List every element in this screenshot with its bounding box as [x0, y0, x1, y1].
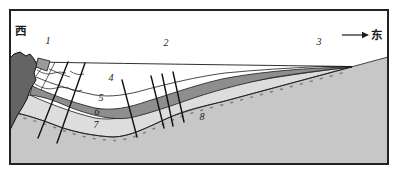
geological-cross-section-figure: 西 东 1 2 3 4 5 6 7 8: [0, 0, 394, 176]
zone2-label: 2: [164, 37, 169, 48]
unit4-label: 4: [109, 72, 114, 83]
east-label: 东: [371, 28, 383, 41]
zone1-label: 1: [46, 35, 51, 46]
unit5-label: 5: [99, 92, 104, 103]
unit8-label: 8: [200, 111, 205, 122]
cross-section-canvas: 西 东 1 2 3 4 5 6 7 8: [0, 0, 394, 176]
zone3-label: 3: [316, 36, 322, 47]
west-label: 西: [15, 25, 27, 37]
unit6-label: 6: [95, 106, 100, 117]
